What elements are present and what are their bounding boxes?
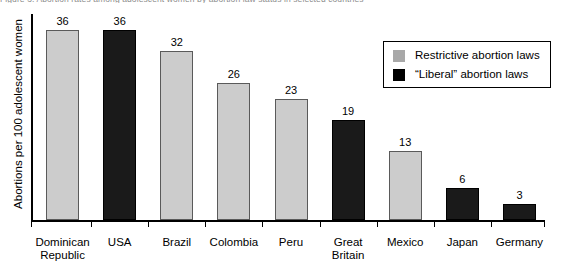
bar-value-label: 6 <box>437 173 487 185</box>
legend-label-restrictive: Restrictive abortion laws <box>415 49 540 61</box>
bar <box>389 151 422 220</box>
x-axis-tick <box>148 222 149 227</box>
bar-value-label: 13 <box>380 136 430 148</box>
bar <box>503 204 536 220</box>
bar <box>46 30 79 220</box>
bar <box>275 99 308 220</box>
bar <box>332 120 365 220</box>
x-axis-label: Germany <box>479 236 559 249</box>
chart-legend: Restrictive abortion laws “Liberal” abor… <box>383 41 551 88</box>
bar-value-label: 32 <box>152 36 202 48</box>
bar-value-label: 26 <box>209 68 259 80</box>
legend-swatch-restrictive-icon <box>393 50 405 62</box>
bar <box>103 30 136 220</box>
x-axis-line <box>31 220 545 222</box>
bar-value-label: 19 <box>323 105 373 117</box>
bar-chart-figure: Figure 3: Abortion rates among adolescen… <box>0 0 565 268</box>
legend-label-liberal: “Liberal” abortion laws <box>415 68 528 80</box>
bar <box>217 83 250 220</box>
bar <box>160 51 193 220</box>
x-axis-tick <box>31 222 32 227</box>
bar <box>446 188 479 220</box>
bar-value-label: 36 <box>38 15 88 27</box>
bar-value-label: 36 <box>95 15 145 27</box>
bar-value-label: 23 <box>266 84 316 96</box>
x-axis-tick <box>205 222 206 227</box>
x-axis-tick <box>544 222 545 227</box>
x-axis-tick <box>262 222 263 227</box>
y-axis-label: Abortions per 100 adolescent women <box>12 8 24 220</box>
x-axis-tick <box>491 222 492 227</box>
x-axis-tick <box>91 222 92 227</box>
y-axis-line <box>31 14 33 222</box>
chart-title-cutoff: Figure 3: Abortion rates among adolescen… <box>0 0 565 3</box>
x-axis-tick <box>434 222 435 227</box>
x-axis-tick <box>320 222 321 227</box>
bar-value-label: 3 <box>494 189 544 201</box>
x-axis-tick <box>377 222 378 227</box>
legend-swatch-liberal-icon <box>393 69 405 81</box>
